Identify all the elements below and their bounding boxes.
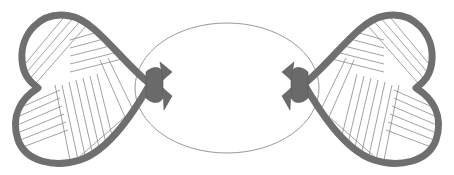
left-heart	[15, 15, 150, 163]
right-bow	[282, 62, 308, 110]
illustration	[0, 0, 454, 175]
right-heart	[304, 15, 439, 163]
left-bow	[146, 62, 172, 110]
